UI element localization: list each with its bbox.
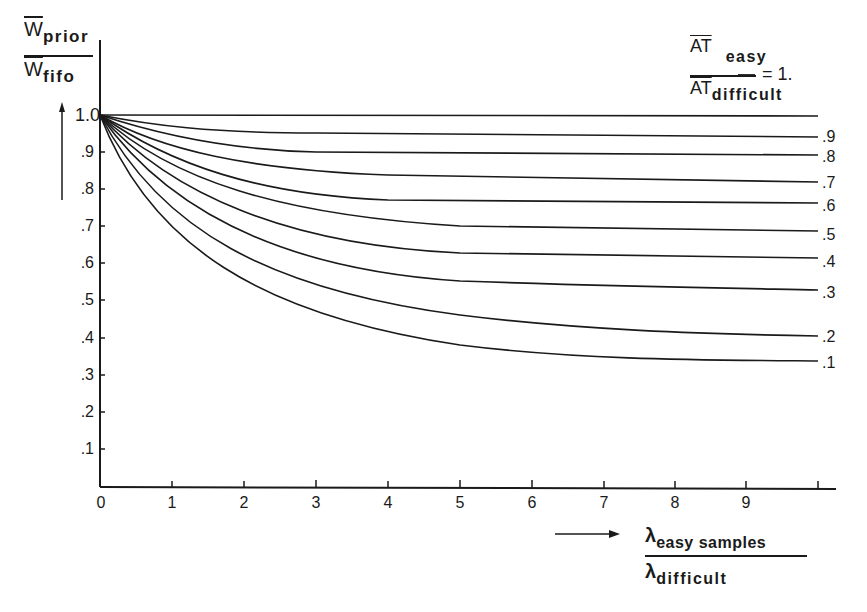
- curve-label: .9: [822, 128, 835, 146]
- y-label-den-base: W: [24, 58, 43, 80]
- x-arrow-icon: [555, 530, 620, 538]
- x-tick-label: 4: [378, 494, 398, 512]
- x-label-den-sub: difficult: [656, 570, 727, 587]
- y-tick-label-top: 1.0: [60, 105, 100, 126]
- y-label-denominator: Wfifo: [24, 58, 75, 87]
- y-label-numerator: Wprior: [24, 18, 89, 47]
- curves: [100, 115, 818, 361]
- x-label-numerator: λeasy samples: [645, 524, 766, 552]
- curve-0.8: [100, 115, 818, 155]
- y-tick-label: .4: [60, 329, 94, 347]
- x-tick-label: 5: [450, 494, 470, 512]
- x-label-den-base: λ: [645, 560, 656, 582]
- curve-label: .3: [822, 284, 835, 302]
- curve-0.1: [100, 115, 818, 361]
- x-label-num-base: λ: [645, 524, 656, 546]
- y-tick-label: .8: [60, 180, 94, 198]
- x-tick-label: 1: [162, 494, 182, 512]
- x-tick-label: 7: [594, 494, 614, 512]
- x-tick-label: 0: [91, 494, 111, 512]
- x-tick-label: 3: [306, 494, 326, 512]
- y-tick-label: .5: [60, 291, 94, 309]
- x-tick-label: 9: [736, 494, 756, 512]
- curve-0.9: [100, 115, 818, 137]
- x-label-denominator: λdifficult: [645, 560, 727, 588]
- curve-label: .1: [822, 354, 835, 372]
- y-tick-label: .2: [60, 403, 94, 421]
- legend-title-numerator: ATeasy: [690, 36, 767, 66]
- curve-label: .4: [822, 253, 835, 271]
- legend-fraction-line: [690, 75, 756, 77]
- x-label-num-sub: easy samples: [656, 534, 766, 551]
- y-label-den-sub: fifo: [43, 67, 75, 86]
- x-tick-label: 6: [522, 494, 542, 512]
- legend-num-base: AT: [690, 36, 712, 56]
- curve-label: .2: [822, 328, 835, 346]
- y-label-num-base: W: [24, 18, 43, 40]
- y-tick-label: .7: [60, 217, 94, 235]
- y-tick-label: .9: [60, 143, 94, 161]
- y-tick-label: .1: [60, 440, 94, 458]
- legend-den-sub: difficult: [712, 86, 783, 103]
- legend-den-base: AT: [690, 78, 712, 98]
- legend-equals: = 1.: [762, 64, 793, 85]
- curve-label: .8: [822, 148, 835, 166]
- curve-0.6: [100, 115, 818, 203]
- x-tick-label: 2: [234, 494, 254, 512]
- y-tick-label: .6: [60, 254, 94, 272]
- curve-label: .5: [822, 226, 835, 244]
- x-tick-label: 8: [665, 494, 685, 512]
- x-axis: [100, 487, 836, 489]
- curve-1.0: [100, 115, 818, 116]
- curve-label: .7: [822, 174, 835, 192]
- y-label-num-sub: prior: [43, 27, 89, 46]
- curve-0.7: [100, 115, 818, 182]
- curve-label: .6: [822, 197, 835, 215]
- y-tick-label: .3: [60, 366, 94, 384]
- legend-num-sub: easy: [726, 48, 768, 65]
